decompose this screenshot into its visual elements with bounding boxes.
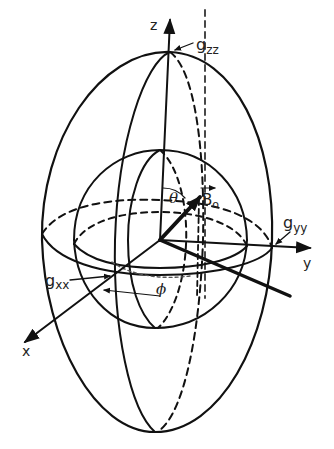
b0-label: Bo bbox=[202, 191, 219, 211]
g-tensor-diagram: z y x gzz gyy gxx Bo θ ϕ bbox=[0, 0, 334, 449]
y-axis bbox=[160, 240, 310, 248]
theta-label: θ bbox=[169, 189, 178, 207]
sphere-meridian-front bbox=[128, 150, 160, 328]
gzz-pointer bbox=[175, 43, 193, 50]
y-axis-label: y bbox=[303, 255, 311, 271]
gyy-label: gyy bbox=[283, 213, 307, 235]
z-axis-label: z bbox=[150, 17, 157, 33]
phi-label: ϕ bbox=[156, 280, 166, 298]
gxx-pointer bbox=[70, 276, 110, 280]
gyy-pointer bbox=[276, 232, 290, 244]
x-axis-label: x bbox=[22, 343, 30, 359]
b0-field-arrow bbox=[160, 197, 200, 240]
gzz-label: gzz bbox=[196, 35, 219, 57]
gxx-label: gxx bbox=[45, 271, 69, 292]
phi-pointer bbox=[104, 290, 160, 296]
